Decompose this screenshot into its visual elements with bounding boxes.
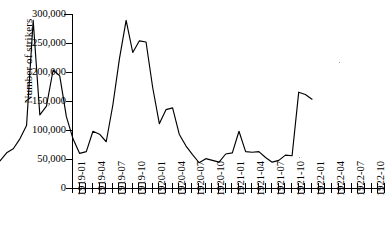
x-tick-label: 1922-10 — [375, 161, 386, 196]
x-tick-label: 1919-10 — [136, 161, 147, 196]
x-tick-label: 1919-01 — [76, 161, 87, 196]
x-tick-label: 1921-10 — [295, 161, 306, 196]
x-tick-label: 1920-04 — [176, 161, 187, 196]
x-tick-label: 1920-01 — [156, 161, 167, 196]
x-tick-label: 1919-04 — [96, 161, 107, 196]
x-tick-label: 1921-01 — [235, 161, 246, 196]
x-tick-label: 1921-04 — [255, 161, 266, 196]
x-axis-tick-labels: 1919-011919-041919-071919-101920-011920-… — [0, 0, 391, 250]
x-tick-label: 1920-10 — [215, 161, 226, 196]
x-tick-label: 1920-07 — [195, 161, 206, 196]
chart-container: Number of strikers 300,000 250,000 200,0… — [0, 0, 391, 250]
x-tick-label: 1922-01 — [315, 161, 326, 196]
x-tick-label: 1919-07 — [116, 161, 127, 196]
x-tick-label: 1922-04 — [335, 161, 346, 196]
x-tick-label: 1921-07 — [275, 161, 286, 196]
x-tick-label: 1922-07 — [355, 161, 366, 196]
